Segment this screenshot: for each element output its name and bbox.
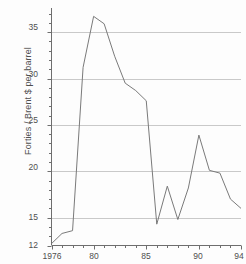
plot-area xyxy=(0,0,246,264)
x-axis-ticks xyxy=(53,246,242,250)
y-axis-ticks xyxy=(48,15,52,247)
chart-figure: Forties / Brent $ per barrel 35 30 25 20… xyxy=(0,0,246,264)
gridlines xyxy=(52,33,242,219)
data-series-line xyxy=(52,16,242,243)
